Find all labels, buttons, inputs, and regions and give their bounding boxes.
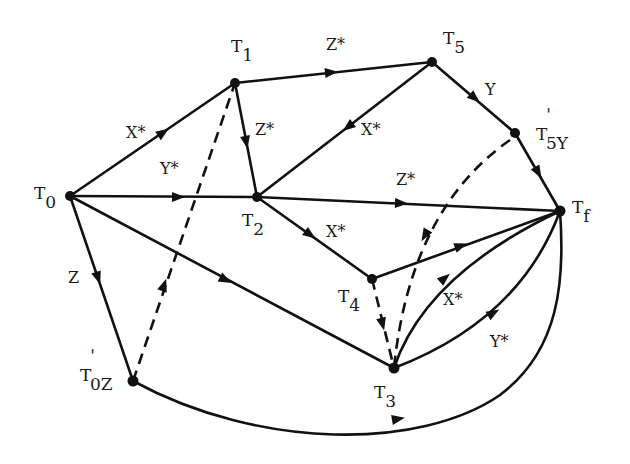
arrow-icon bbox=[531, 165, 546, 181]
arrow-icon bbox=[324, 67, 338, 78]
node-t1 bbox=[230, 78, 240, 88]
label-t2: T2 bbox=[242, 210, 264, 239]
arrow-icon bbox=[376, 317, 389, 332]
label-t5y-prime: T'5Y bbox=[536, 104, 569, 153]
node-t4 bbox=[367, 274, 377, 284]
node-tf bbox=[555, 206, 566, 217]
edge-label-t3-tf-y: Y* bbox=[489, 332, 509, 351]
arrow-icon bbox=[395, 198, 408, 209]
edge-t3-tf-x bbox=[394, 211, 560, 368]
arrow-icon bbox=[486, 305, 502, 320]
arrow-icon bbox=[172, 192, 185, 202]
edge-label-t5-t5y: Y bbox=[484, 80, 496, 99]
node-t2 bbox=[252, 192, 262, 202]
edge-label-t0-t0z: Z bbox=[68, 268, 79, 287]
arrow-icon bbox=[91, 270, 105, 286]
edge-label-t2-t4: X* bbox=[326, 222, 345, 241]
edge-label-t1-t2: Z* bbox=[255, 120, 274, 139]
edge-label-t0-t2: Y* bbox=[159, 159, 179, 178]
state-transition-diagram: T0 T1 T2 T5 T'5Y Tf T4 T3 T'0Z X* Y* Z Z… bbox=[0, 0, 630, 464]
node-t0z-prime bbox=[128, 376, 139, 387]
label-t1: T1 bbox=[231, 36, 253, 65]
label-t3: T3 bbox=[374, 382, 396, 411]
label-tf: Tf bbox=[572, 197, 591, 226]
arrowheads bbox=[91, 67, 546, 425]
arrow-icon bbox=[157, 277, 171, 293]
edge-label-t2-tf: Z* bbox=[396, 170, 415, 189]
label-t0z-prime: T'0Z bbox=[80, 345, 113, 394]
node-t5 bbox=[427, 57, 437, 67]
edge-t2-tf bbox=[257, 197, 560, 211]
label-t0: T0 bbox=[34, 183, 56, 212]
label-t4: T4 bbox=[338, 286, 360, 315]
node-t0 bbox=[65, 191, 75, 201]
edge-t0-t2 bbox=[70, 196, 257, 197]
edge-t0z-t1-dashed bbox=[133, 83, 235, 381]
arrow-icon bbox=[391, 413, 406, 425]
edge-label-t3-tf-x: X* bbox=[443, 290, 462, 309]
edge-label-t1-t5: Z* bbox=[326, 35, 345, 54]
edge-label-t5-t2: X* bbox=[361, 120, 380, 139]
edge-label-t0-t1: X* bbox=[126, 123, 145, 142]
node-t3 bbox=[389, 363, 400, 374]
node-t5y-prime bbox=[510, 128, 520, 138]
label-t5: T5 bbox=[443, 28, 465, 57]
edge-t0-t1 bbox=[70, 83, 235, 196]
edge-t3-tf-y bbox=[394, 211, 560, 368]
